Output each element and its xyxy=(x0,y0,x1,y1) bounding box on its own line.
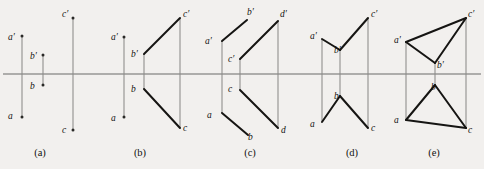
point-label-a: a xyxy=(8,111,13,121)
edge-line-c xyxy=(222,20,247,41)
edge-line-e xyxy=(435,85,466,128)
point-marker-a xyxy=(42,84,45,87)
point-label-e: a xyxy=(394,115,399,125)
figure-root: a′b′bac′ca′b′bac′ca′b′c′cabd′da′b′bac′ca… xyxy=(0,0,484,169)
point-label-b: c xyxy=(183,123,188,133)
point-label-c: d xyxy=(281,125,286,135)
point-marker-a xyxy=(21,116,24,119)
point-label-d: b xyxy=(334,91,339,101)
point-label-b: a′ xyxy=(111,32,119,42)
caption-a: (a) xyxy=(34,147,46,159)
panel-e xyxy=(406,18,466,128)
caption-c: (c) xyxy=(244,147,256,159)
point-label-e: b′ xyxy=(437,60,445,70)
edge-line-d xyxy=(340,18,368,50)
point-marker-a xyxy=(21,35,24,38)
caption-b: (b) xyxy=(134,147,147,159)
point-label-d: a′ xyxy=(310,31,318,41)
panel-captions: (a)(b)(c)(d)(e) xyxy=(34,147,440,159)
point-marker-b xyxy=(123,36,126,39)
point-label-c: c xyxy=(228,84,233,94)
panel-d xyxy=(322,18,368,128)
caption-d: (d) xyxy=(346,147,359,159)
point-marker-b xyxy=(123,116,126,119)
point-label-d: a xyxy=(310,119,315,129)
edge-line-b xyxy=(144,89,180,128)
point-label-b: b′ xyxy=(131,49,139,59)
point-marker-a xyxy=(72,17,75,20)
point-label-c: a xyxy=(207,110,212,120)
orthographic-projection-figure: a′b′bac′ca′b′bac′ca′b′c′cabd′da′b′bac′ca… xyxy=(0,0,484,169)
point-marker-a xyxy=(72,129,75,132)
point-label-b: c′ xyxy=(183,9,190,19)
edge-line-c xyxy=(240,90,278,128)
point-label-d: c′ xyxy=(371,9,378,19)
point-label-a: b xyxy=(30,81,35,91)
panel-b xyxy=(123,18,181,128)
point-label-c: a′ xyxy=(205,36,213,46)
panel-c xyxy=(222,20,278,135)
point-label-b: a xyxy=(111,113,116,123)
point-label-b: b xyxy=(131,84,136,94)
edge-line-e xyxy=(406,120,466,128)
point-label-d: b′ xyxy=(334,45,342,55)
point-label-e: b xyxy=(431,82,436,92)
edge-line-c xyxy=(240,21,278,59)
caption-e: (e) xyxy=(428,147,440,159)
point-label-c: b xyxy=(248,132,253,142)
edge-line-e xyxy=(406,42,435,63)
edge-line-d xyxy=(340,96,368,128)
point-label-c: d′ xyxy=(280,9,288,19)
point-label-d: c xyxy=(371,123,376,133)
point-label-c: b′ xyxy=(247,7,255,17)
edge-line-b xyxy=(144,18,180,54)
edge-line-c xyxy=(222,113,248,135)
point-label-a: a′ xyxy=(8,32,16,42)
point-label-e: a′ xyxy=(394,35,402,45)
point-label-a: b′ xyxy=(30,51,38,61)
point-label-a: c′ xyxy=(62,9,69,19)
point-label-c: c′ xyxy=(228,54,235,64)
point-marker-a xyxy=(42,54,45,57)
point-label-a: c xyxy=(62,125,67,135)
point-label-e: c xyxy=(468,125,473,135)
point-label-e: c′ xyxy=(468,9,475,19)
